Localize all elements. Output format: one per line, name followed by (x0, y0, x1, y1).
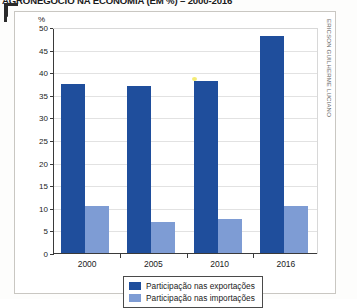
y-tick-label: 50 (18, 24, 48, 33)
bar-2005-exportacoes (127, 86, 151, 253)
chart-legend: Participação nas exportações Participaçã… (123, 276, 263, 308)
legend-item-importacoes: Participação nas importações (129, 292, 255, 304)
y-tick-mark (50, 164, 54, 165)
y-tick-mark (50, 141, 54, 142)
y-tick-mark (50, 73, 54, 74)
bar-2000-exportacoes (61, 84, 85, 254)
y-tick-mark (50, 51, 54, 52)
y-tick-mark (50, 96, 54, 97)
x-tick-label-2010: 2010 (210, 259, 229, 269)
bar-2005-importacoes (151, 222, 175, 253)
legend-item-exportacoes: Participação nas exportações (129, 280, 255, 292)
y-gridline (54, 28, 318, 29)
y-tick-label: 10 (18, 204, 48, 213)
y-tick-label: 15 (18, 182, 48, 191)
y-tick-mark (50, 118, 54, 119)
y-tick-mark (50, 254, 54, 255)
y-tick-label: 40 (18, 69, 48, 78)
y-tick-label: 20 (18, 159, 48, 168)
legend-label-exportacoes: Participação nas exportações (146, 281, 255, 291)
watermark-credit-text: ERICSON GUILHERME LUCIANO (326, 19, 332, 117)
watermark-credit: ERICSON GUILHERME LUCIANO (323, 19, 335, 189)
bar-2016-importacoes (284, 206, 308, 253)
x-tick-mark (120, 254, 121, 258)
figure-title-strip: AGRONEGÓCIO NA ECONOMIA (EM %) – 2000-20… (0, 0, 340, 7)
y-tick-mark (50, 186, 54, 187)
legend-swatch-icon-importacoes (129, 294, 141, 302)
legend-swatch-icon-exportacoes (129, 282, 141, 290)
plot-container: % 051015202530354045502000200520102016 P… (14, 11, 336, 294)
bar-2016-exportacoes (260, 36, 284, 253)
y-tick-label: 30 (18, 114, 48, 123)
y-tick-label: 0 (18, 250, 48, 259)
x-tick-label-2000: 2000 (78, 259, 97, 269)
plot-area: 051015202530354045502000200520102016 (53, 28, 318, 254)
x-tick-label-2016: 2016 (276, 259, 295, 269)
y-tick-label: 45 (18, 46, 48, 55)
y-tick-mark (50, 28, 54, 29)
scan-bracket-artifact-bar (4, 3, 8, 17)
y-tick-mark (50, 231, 54, 232)
x-tick-mark (253, 254, 254, 258)
legend-label-importacoes: Participação nas importações (146, 293, 255, 303)
y-tick-label: 25 (18, 137, 48, 146)
bar-2010-importacoes (218, 219, 242, 253)
bar-2000-importacoes (85, 206, 109, 253)
x-tick-mark (187, 254, 188, 258)
y-tick-label: 5 (18, 227, 48, 236)
bar-2010-exportacoes (194, 81, 218, 253)
x-tick-label-2005: 2005 (144, 259, 163, 269)
page-title: AGRONEGÓCIO NA ECONOMIA (EM %) – 2000-20… (0, 0, 340, 7)
y-tick-label: 35 (18, 91, 48, 100)
y-tick-mark (50, 209, 54, 210)
scan-speck-artifact (192, 77, 197, 81)
